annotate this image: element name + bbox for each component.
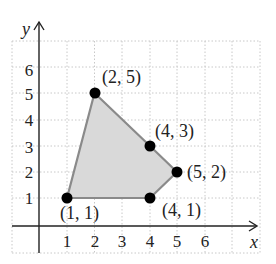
- feasible-region-plot: y x 6 5 4 3 2 1 1 2 3 4 5 6 (1, 1) (2, 5…: [0, 0, 276, 264]
- label-1-1: (1, 1): [60, 203, 99, 224]
- vertex-5-2: [172, 167, 183, 178]
- svg-text:2: 2: [91, 232, 100, 251]
- svg-text:5: 5: [25, 85, 34, 104]
- vertex-4-3: [145, 141, 156, 152]
- svg-text:4: 4: [25, 111, 34, 130]
- y-axis-label: y: [20, 19, 30, 39]
- svg-text:3: 3: [25, 138, 34, 157]
- vertex-1-1: [62, 193, 73, 204]
- x-tick-labels: 1 2 3 4 5 6: [63, 232, 210, 251]
- svg-text:6: 6: [25, 61, 34, 80]
- svg-text:5: 5: [173, 232, 182, 251]
- svg-text:1: 1: [25, 189, 34, 208]
- svg-text:4: 4: [146, 232, 155, 251]
- label-2-5: (2, 5): [102, 67, 141, 88]
- label-4-3: (4, 3): [155, 121, 194, 142]
- svg-text:6: 6: [201, 232, 210, 251]
- svg-text:1: 1: [63, 232, 72, 251]
- x-axis-label: x: [249, 232, 258, 252]
- vertex-2-5: [90, 88, 101, 99]
- label-4-1: (4, 1): [162, 200, 201, 221]
- label-5-2: (5, 2): [187, 162, 226, 183]
- y-tick-labels: 6 5 4 3 2 1: [25, 61, 34, 208]
- vertex-4-1: [145, 193, 156, 204]
- svg-text:2: 2: [25, 163, 34, 182]
- svg-text:3: 3: [118, 232, 127, 251]
